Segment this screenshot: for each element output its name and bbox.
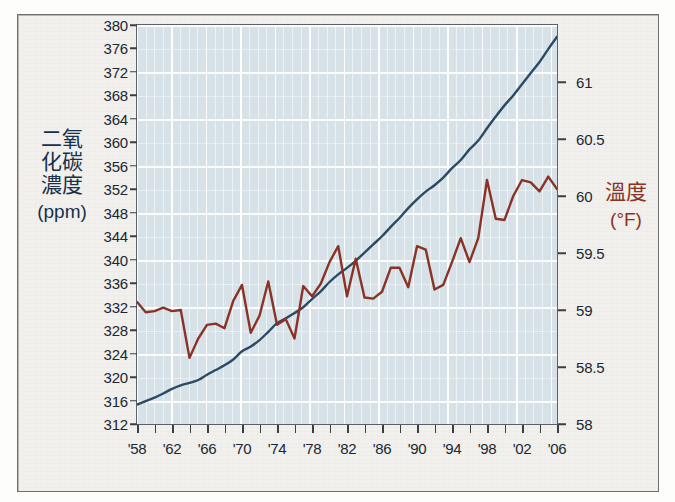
bottom-tickmark	[330, 425, 332, 433]
bottom-tickmark	[155, 425, 157, 433]
left-tickmark	[130, 212, 137, 214]
left-axis-tick-labels: 3803763723683643603563523483443403363323…	[78, 0, 128, 502]
left-tickmark	[130, 118, 137, 120]
left-tick-label: 312	[104, 416, 128, 433]
bottom-tickmark	[557, 425, 559, 433]
x-tick-label: '58	[128, 440, 147, 457]
right-tick-label: 61	[576, 74, 592, 91]
bottom-tickmark	[190, 425, 192, 433]
x-tick-label: '98	[478, 440, 497, 457]
x-tick-label: '06	[548, 440, 567, 457]
x-tick-label: '86	[373, 440, 392, 457]
right-tick-label: 59.5	[576, 245, 604, 262]
co2-line	[137, 37, 557, 405]
left-tick-label: 340	[104, 251, 128, 268]
bottom-tickmark	[277, 425, 279, 433]
bottom-tickmark	[382, 425, 384, 433]
chart-figure: 二氧化碳濃度 (ppm) 溫度 (°F) 3803763723683643603…	[0, 0, 675, 502]
right-tick-label: 58	[576, 416, 592, 433]
right-axis-tick-labels: 6160.56059.55958.558	[566, 0, 626, 502]
left-tick-label: 344	[104, 228, 128, 245]
bottom-tickmark	[522, 425, 524, 433]
bottom-tickmark	[172, 425, 174, 433]
left-tickmark	[130, 95, 137, 97]
bottom-tickmark	[242, 425, 244, 433]
bottom-tickmark	[417, 425, 419, 433]
right-tickmark	[558, 309, 566, 311]
left-tickmark	[130, 329, 137, 331]
right-tickmark	[558, 252, 566, 254]
right-tickmark	[558, 423, 566, 425]
left-tickmark	[130, 24, 137, 26]
left-tick-label: 360	[104, 134, 128, 151]
bottom-tickmark	[487, 425, 489, 433]
bottom-tickmark	[470, 425, 472, 433]
bottom-tickmark	[505, 425, 507, 433]
right-tick-label: 59	[576, 302, 592, 319]
x-tick-label: '66	[198, 440, 217, 457]
bottom-tickmark	[452, 425, 454, 433]
bottom-tickmark	[137, 425, 139, 433]
bottom-tickmark	[365, 425, 367, 433]
series-canvas	[137, 25, 557, 424]
left-tick-label: 352	[104, 181, 128, 198]
left-tickmark	[130, 165, 137, 167]
plot-area	[136, 24, 558, 425]
bottom-tickmark	[207, 425, 209, 433]
right-tickmark	[558, 366, 566, 368]
bottom-tickmark	[225, 425, 227, 433]
left-tick-label: 332	[104, 298, 128, 315]
left-tickmark	[130, 400, 137, 402]
left-tick-label: 372	[104, 63, 128, 80]
right-tick-label: 60.5	[576, 131, 604, 148]
left-tickmark	[130, 142, 137, 144]
bottom-tickmark	[540, 425, 542, 433]
bottom-tickmark	[260, 425, 262, 433]
right-tickmark	[558, 195, 566, 197]
left-tick-label: 324	[104, 345, 128, 362]
left-tickmark	[130, 235, 137, 237]
x-tick-label: '94	[443, 440, 462, 457]
left-tickmark	[130, 71, 137, 73]
x-tick-label: '82	[338, 440, 357, 457]
bottom-tickmark	[435, 425, 437, 433]
x-tick-label: '74	[268, 440, 287, 457]
left-tickmark	[130, 353, 137, 355]
left-tick-label: 328	[104, 322, 128, 339]
left-tick-label: 368	[104, 87, 128, 104]
x-tick-label: '78	[303, 440, 322, 457]
left-tickmark	[130, 48, 137, 50]
bottom-tickmark	[400, 425, 402, 433]
left-tickmark	[130, 189, 137, 191]
left-tick-label: 380	[104, 17, 128, 34]
left-tickmark	[130, 423, 137, 425]
left-tick-label: 356	[104, 157, 128, 174]
x-tick-label: '02	[513, 440, 532, 457]
x-tick-label: '70	[233, 440, 252, 457]
left-tick-label: 320	[104, 369, 128, 386]
left-tickmark	[130, 282, 137, 284]
right-tick-label: 58.5	[576, 359, 604, 376]
right-tickmark	[558, 81, 566, 83]
bottom-tickmark	[347, 425, 349, 433]
bottom-tickmark	[312, 425, 314, 433]
right-tick-label: 60	[576, 188, 592, 205]
left-tickmark	[130, 306, 137, 308]
left-tick-label: 376	[104, 40, 128, 57]
left-tick-label: 316	[104, 392, 128, 409]
left-tick-label: 336	[104, 275, 128, 292]
bottom-tickmark	[295, 425, 297, 433]
x-tick-label: '90	[408, 440, 427, 457]
left-tickmark	[130, 376, 137, 378]
left-tickmark	[130, 259, 137, 261]
right-tickmark	[558, 138, 566, 140]
x-tick-label: '62	[163, 440, 182, 457]
left-tick-label: 364	[104, 110, 128, 127]
left-tick-label: 348	[104, 204, 128, 221]
